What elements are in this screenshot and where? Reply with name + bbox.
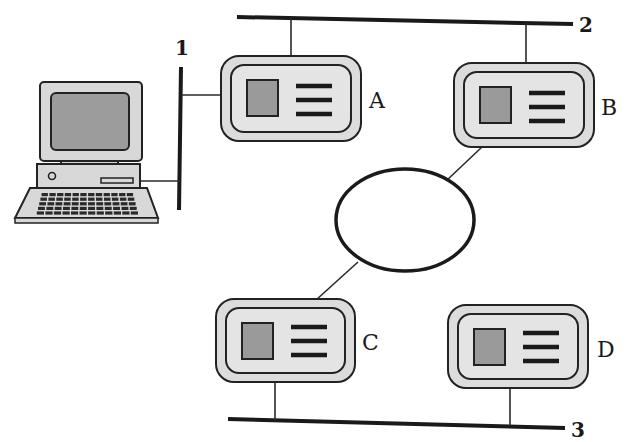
link-ring-device-c: [316, 262, 358, 300]
keyboard-key: [39, 202, 46, 205]
keyboard-key: [49, 193, 55, 196]
keyboard-key: [96, 198, 103, 201]
device-d-label: D: [597, 337, 615, 362]
keyboard-key: [80, 193, 86, 196]
keyboard-key: [113, 202, 120, 205]
keyboard-key: [42, 193, 48, 196]
keyboard-key: [55, 207, 62, 210]
keyboard-key: [72, 198, 79, 201]
keyboard-key: [56, 198, 63, 201]
keyboard-key: [46, 207, 53, 210]
keyboard-key: [56, 202, 63, 205]
keyboard-key: [38, 207, 45, 210]
bus-2-line: [237, 17, 573, 24]
drive-slot-icon: [101, 178, 133, 183]
keyboard-key: [64, 198, 71, 201]
keyboard-key: [88, 202, 95, 205]
keyboard-key: [121, 202, 128, 205]
keyboard-key: [88, 198, 95, 201]
keyboard-key: [128, 198, 135, 201]
keyboard-key: [65, 193, 71, 196]
keyboard-key: [120, 198, 127, 201]
keyboard-key: [71, 207, 78, 210]
power-button-icon: [49, 173, 56, 180]
device-a[interactable]: [221, 56, 361, 141]
keyboard-key: [37, 211, 44, 214]
keyboard-edge: [15, 218, 158, 223]
keyboard-key: [104, 198, 111, 201]
keyboard-key: [71, 211, 78, 214]
device-b-screen-icon: [480, 87, 511, 123]
device-a-label: A: [368, 88, 386, 113]
bus-3-label: 3: [571, 418, 585, 442]
device-b[interactable]: [454, 63, 594, 147]
keyboard-key: [72, 202, 79, 205]
bus-1-label: 1: [175, 36, 189, 60]
monitor-screen: [51, 93, 129, 150]
keyboard-key: [112, 198, 119, 201]
keyboard-key: [88, 207, 95, 210]
keyboard-key: [113, 207, 120, 210]
device-d[interactable]: [448, 305, 588, 388]
keyboard-key: [63, 211, 70, 214]
link-device-b-ring: [446, 147, 482, 181]
keyboard-key: [131, 211, 138, 214]
keyboard-key: [48, 198, 55, 201]
keyboard-key: [104, 193, 110, 196]
keyboard-key: [130, 207, 137, 210]
keyboard-key: [73, 193, 79, 196]
device-a-screen-icon: [247, 80, 278, 116]
keyboard-key: [105, 211, 112, 214]
keyboard-key: [96, 202, 103, 205]
keyboard-key: [97, 211, 104, 214]
keyboard-key: [111, 193, 117, 196]
keyboard-key: [47, 202, 54, 205]
keyboard-key: [114, 211, 121, 214]
keyboard-key: [119, 193, 125, 196]
keyboard-key: [80, 198, 87, 201]
network-diagram: 2 1 3 A B C: [0, 0, 628, 442]
keyboard-key: [80, 211, 87, 214]
keyboard-key: [45, 211, 52, 214]
keyboard-key: [122, 207, 129, 210]
bus-2-label: 2: [579, 13, 593, 37]
device-c[interactable]: [216, 299, 355, 382]
keyboard-key: [129, 202, 136, 205]
bus-1-line: [179, 67, 181, 210]
keyboard-key: [96, 207, 103, 210]
keyboard-key: [54, 211, 61, 214]
bus-3-line: [228, 419, 565, 428]
keyboard-key: [122, 211, 129, 214]
keyboard-key: [40, 198, 47, 201]
device-d-screen-icon: [474, 329, 505, 365]
keyboard-key: [88, 193, 94, 196]
device-c-label: C: [362, 330, 379, 355]
ring-network: [336, 169, 474, 271]
keyboard-key: [104, 202, 111, 205]
keyboard-key: [64, 202, 71, 205]
keyboard-key: [80, 202, 87, 205]
keyboard-key: [57, 193, 63, 196]
computer-icon[interactable]: [15, 82, 158, 223]
keyboard-key: [80, 207, 87, 210]
keyboard-key: [88, 211, 95, 214]
keyboard-key: [63, 207, 70, 210]
keyboard-key: [127, 193, 133, 196]
device-c-screen-icon: [242, 323, 273, 359]
keyboard-key: [105, 207, 112, 210]
device-b-label: B: [601, 95, 617, 120]
keyboard-key: [96, 193, 102, 196]
